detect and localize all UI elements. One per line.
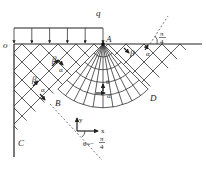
alpha-line: [126, 44, 206, 164]
alpha-line: [0, 44, 88, 164]
label-alpha-1: α: [59, 66, 63, 74]
label-origin-o: o: [3, 40, 8, 50]
dashed-line-pi4: [150, 16, 168, 44]
beta-line: [0, 44, 54, 164]
beta-line: [132, 44, 206, 164]
alpha-line: [130, 44, 206, 164]
beta-line: [0, 44, 76, 164]
dashed-line-B: [50, 104, 102, 160]
fan-radial-line: [103, 44, 148, 89]
label-theta-eq-den: 4: [100, 143, 104, 151]
load-label-q: q: [96, 8, 101, 18]
alpha-line: [180, 44, 206, 164]
beta-line: [0, 44, 58, 164]
beta-line: [0, 44, 4, 164]
alpha-line: [198, 44, 206, 164]
label-beta-3: β: [129, 48, 135, 58]
label-D: D: [149, 93, 157, 103]
fan-radial-line: [83, 44, 103, 105]
alpha-line: [144, 44, 206, 164]
label-y-axis: y: [79, 116, 83, 124]
beta-line: [150, 44, 206, 164]
alpha-line: [0, 44, 52, 164]
label-alpha-fan: α: [107, 92, 111, 100]
beta-line: [78, 44, 198, 164]
fan-radial-line: [103, 44, 141, 96]
load-arrows: [14, 28, 103, 43]
theta-angle-arc: [82, 131, 85, 137]
point-A-marker: [101, 42, 105, 46]
load-block: [14, 28, 103, 43]
alpha-line: [166, 44, 206, 164]
beta-line: [60, 44, 180, 164]
beta-arrow-3: [124, 48, 129, 53]
label-A: A: [105, 34, 112, 44]
beta-line: [114, 44, 206, 164]
alpha-line: [162, 44, 206, 164]
beta-line: [0, 44, 18, 164]
beta-line: [168, 44, 206, 164]
alpha-line: [184, 44, 206, 164]
alpha-line: [54, 44, 174, 164]
beta-line: [0, 44, 72, 164]
label-B: B: [55, 98, 61, 108]
alpha-line: [148, 44, 206, 164]
label-pi4-den: 4: [160, 38, 164, 46]
label-theta-eq: θ=−: [83, 140, 94, 148]
label-alpha-2: α: [41, 86, 45, 94]
label-x-axis: x: [101, 127, 105, 135]
label-theta-eq-num: π: [100, 135, 104, 143]
label-beta-2: β: [31, 74, 37, 84]
label-pi4-num: π: [160, 30, 164, 38]
beta-line: [64, 44, 184, 164]
slip-line-diagram: q o A B C D β α β α β α θ α π 4 y x θ=− …: [0, 0, 206, 173]
alpha-line: [18, 44, 138, 164]
fan-radial-line: [103, 44, 123, 105]
alpha-line: [0, 44, 34, 164]
label-beta-1: β: [51, 54, 57, 64]
alpha-line: [90, 44, 206, 164]
angle-arc-pi4: [155, 36, 157, 44]
alpha-line: [94, 44, 206, 164]
label-alpha-3: α: [146, 50, 150, 58]
label-C: C: [18, 138, 25, 148]
